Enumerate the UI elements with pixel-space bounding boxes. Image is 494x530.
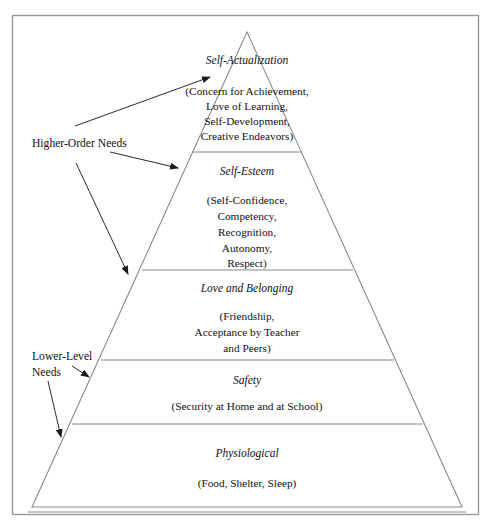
tier-3-title: Love and Belonging [200, 282, 294, 295]
tier-1-detail-line-4: Creative Endeavors) [201, 130, 294, 143]
tier-1-title: Self-Actualization [206, 54, 289, 67]
tier-4-title: Safety [233, 374, 262, 387]
tier-1-detail-line-1: (Concern for Achievement, [185, 85, 308, 98]
lower-level-needs-label-line-1: Lower-Level [32, 350, 92, 363]
lower-level-needs-label-line-2: Needs [32, 366, 61, 379]
tier-1-detail-line-2: Love of Learning, [206, 100, 288, 112]
higher-order-needs-label: Higher-Order Needs [32, 137, 127, 150]
tier-1-detail-line-3: Self-Development, [204, 115, 290, 127]
maslow-pyramid-diagram: Self-Actualization (Concern for Achievem… [0, 0, 494, 530]
tier-5-title: Physiological [214, 447, 278, 460]
tier-4-detail-line-1: (Security at Home and at School) [172, 400, 323, 413]
tier-2-detail-line-4: Autonomy, [222, 242, 273, 254]
tier-3-detail-line-1: (Friendship, [220, 310, 275, 323]
tier-2-detail-line-1: (Self-Confidence, [207, 194, 288, 207]
tier-2-title: Self-Esteem [220, 165, 274, 178]
pyramid-canvas: Self-Actualization (Concern for Achievem… [0, 0, 494, 530]
tier-5-detail-line-1: (Food, Shelter, Sleep) [198, 477, 297, 490]
tier-3-detail-line-2: Acceptance by Teacher [195, 326, 300, 338]
tier-2-detail-line-5: Respect) [227, 257, 267, 270]
tier-2-detail-line-2: Competency, [217, 210, 276, 222]
tier-2-detail-line-3: Recognition, [218, 226, 276, 238]
tier-3-detail-line-3: and Peers) [223, 342, 271, 355]
